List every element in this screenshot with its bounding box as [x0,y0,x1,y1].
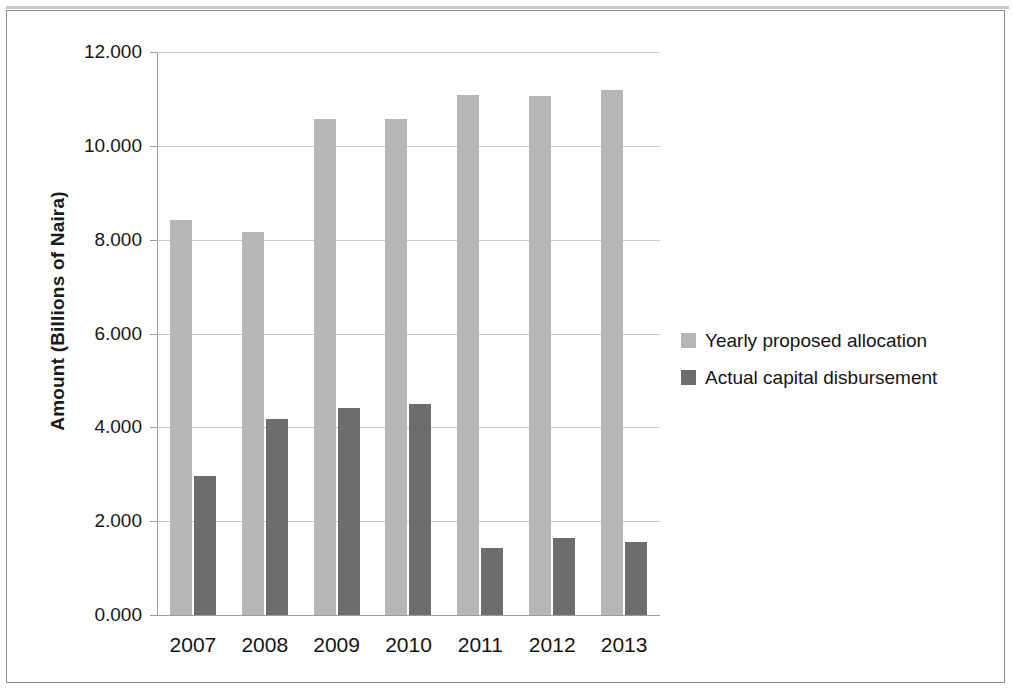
y-axis-tick [150,146,157,147]
bar-group: 2008 [229,52,301,615]
legend-label-proposed: Yearly proposed allocation [705,330,927,352]
bar-group: 2009 [301,52,373,615]
x-axis-tick-label-2013: 2013 [588,633,660,657]
bar-proposed-2008[interactable] [242,232,264,615]
bar-disbursed-2012[interactable] [553,538,575,615]
y-axis-tick [150,615,157,616]
y-axis-tick-label: 2.000 [94,510,142,532]
y-axis-tick-label: 12.000 [84,41,142,63]
x-axis-tick-label-2012: 2012 [516,633,588,657]
bar-group: 2012 [516,52,588,615]
bar-proposed-2010[interactable] [385,119,407,615]
x-axis-tick-label-2007: 2007 [157,633,229,657]
figure-frame-shadow [6,6,1009,9]
bar-group: 2010 [373,52,445,615]
legend-swatch-icon-disbursement [681,370,696,385]
bar-proposed-2009[interactable] [314,119,336,615]
bar-disbursed-2009[interactable] [338,408,360,615]
chart-legend: Yearly proposed allocation Actual capita… [681,322,981,396]
bar-disbursed-2010[interactable] [409,404,431,615]
y-axis-tick [150,521,157,522]
x-axis-tick-label-2009: 2009 [301,633,373,657]
y-axis-tick [150,427,157,428]
y-axis-tick [150,52,157,53]
y-axis-tick-label: 0.000 [94,604,142,626]
plot-area: 0.0002.0004.0006.0008.00010.00012.000200… [157,52,660,615]
legend-label-disbursement: Actual capital disbursement [705,367,937,389]
bar-disbursed-2008[interactable] [266,419,288,615]
x-axis-tick-label-2010: 2010 [373,633,445,657]
legend-item-proposed: Yearly proposed allocation [681,322,981,359]
bar-proposed-2011[interactable] [457,95,479,615]
bar-group: 2011 [444,52,516,615]
legend-item-disbursement: Actual capital disbursement [681,359,981,396]
x-axis-tick-label-2011: 2011 [444,633,516,657]
bar-disbursed-2011[interactable] [481,548,503,615]
legend-swatch-icon-proposed [681,333,696,348]
y-axis-tick [150,334,157,335]
y-axis-tick-label: 8.000 [94,229,142,251]
bar-proposed-2013[interactable] [601,90,623,615]
y-axis-tick-label: 10.000 [84,135,142,157]
y-axis-title: Amount (Billions of Naira) [47,101,69,521]
bar-proposed-2007[interactable] [170,220,192,615]
y-gridline [157,615,660,616]
y-axis-tick [150,240,157,241]
y-axis-tick-label: 6.000 [94,323,142,345]
y-axis-tick-label: 4.000 [94,416,142,438]
chart-figure: Amount (Billions of Naira) 0.0002.0004.0… [0,0,1013,693]
x-axis-tick-label-2008: 2008 [229,633,301,657]
bar-disbursed-2007[interactable] [194,476,216,615]
bar-group: 2013 [588,52,660,615]
bar-proposed-2012[interactable] [529,96,551,615]
bar-disbursed-2013[interactable] [625,542,647,615]
bar-group: 2007 [157,52,229,615]
